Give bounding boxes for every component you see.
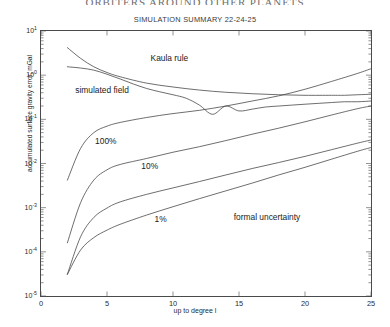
figure-root: ORBITERS AROUND OTHER PLANETS SIMULATION… (0, 0, 390, 327)
annotation-10: 10% (141, 161, 158, 171)
x-tick-label: 20 (301, 299, 309, 308)
y-tick-label: 10-4 (25, 246, 37, 255)
x-tick-label: 5 (105, 299, 109, 308)
x-tick-label: 10 (169, 299, 177, 308)
annotation-1: 1% (155, 214, 167, 224)
annotation-100: 100% (95, 136, 116, 146)
running-header: ORBITERS AROUND OTHER PLANETS (0, 0, 390, 5)
x-tick-label: 25 (367, 299, 375, 308)
series-line-1 (67, 140, 371, 274)
annotation-simulated-field: simulated field (75, 85, 129, 95)
annotation-kaula-rule: Kaula rule (151, 53, 189, 63)
chart-canvas (41, 31, 371, 296)
x-tick-label: 15 (235, 299, 243, 308)
y-axis-label: accumulated surface gravity error, mGal (26, 0, 33, 229)
series-line-10 (67, 106, 371, 243)
y-tick-label: 10-5 (25, 290, 37, 299)
x-tick-label: 0 (39, 299, 43, 308)
plot-area (40, 30, 372, 297)
chart-title: SIMULATION SUMMARY 22-24-25 (0, 15, 390, 24)
x-axis-label: up to degree l (0, 307, 390, 314)
annotation-formal-uncertainty: formal uncertainty (234, 212, 301, 222)
